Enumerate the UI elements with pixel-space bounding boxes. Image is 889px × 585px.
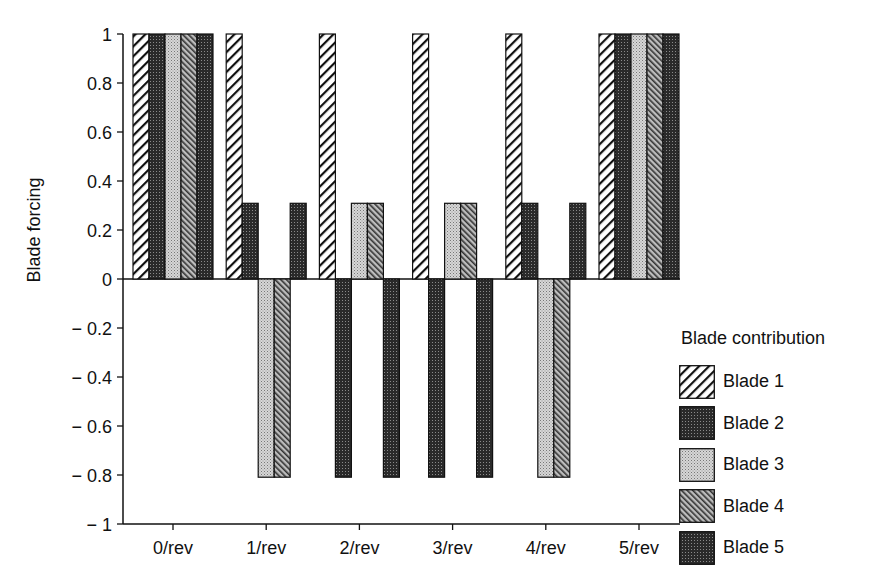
bar-group	[599, 34, 679, 279]
bar-group	[133, 34, 213, 279]
bar-group	[506, 34, 586, 477]
bar	[570, 203, 586, 279]
bars	[133, 34, 679, 477]
legend: Blade contribution Blade 1Blade 2Blade 3…	[679, 328, 825, 569]
bar	[197, 34, 213, 279]
bar	[226, 34, 242, 279]
bar	[477, 279, 493, 477]
bar	[647, 34, 663, 279]
legend-item: Blade 1	[679, 361, 825, 403]
bar	[335, 279, 351, 477]
bar	[506, 34, 522, 279]
bar	[461, 203, 477, 279]
y-tick-label: 0.6	[87, 123, 112, 143]
bar	[413, 34, 429, 279]
bar	[538, 279, 554, 477]
legend-label: Blade 2	[723, 413, 784, 434]
y-tick-label: − 0.2	[71, 319, 112, 339]
x-axis: 0/rev1/rev2/rev3/rev4/rev5/rev	[123, 279, 680, 558]
bar	[351, 203, 367, 279]
legend-label: Blade 5	[723, 537, 784, 558]
x-tick-label: 3/rev	[433, 538, 473, 558]
x-tick-label: 0/rev	[153, 538, 193, 558]
legend-label: Blade 3	[723, 454, 784, 475]
bar	[258, 279, 274, 477]
bar-group	[226, 34, 306, 477]
x-tick-label: 2/rev	[339, 538, 379, 558]
legend-title: Blade contribution	[681, 328, 825, 349]
legend-label: Blade 4	[723, 496, 784, 517]
bar	[522, 203, 538, 279]
bar-group	[413, 34, 493, 477]
bar	[367, 203, 383, 279]
legend-item: Blade 2	[679, 403, 825, 445]
legend-swatch-icon	[679, 406, 715, 440]
y-tick-label: 1	[102, 25, 112, 45]
y-tick-label: − 0.6	[71, 417, 112, 437]
bar	[290, 203, 306, 279]
legend-items: Blade 1Blade 2Blade 3Blade 4Blade 5	[679, 361, 825, 569]
y-tick-label: − 0.4	[71, 368, 112, 388]
bar	[599, 34, 615, 279]
bar	[319, 34, 335, 279]
bar	[165, 34, 181, 279]
legend-item: Blade 3	[679, 444, 825, 486]
bar	[615, 34, 631, 279]
bar	[445, 203, 461, 279]
y-tick-label: 0	[102, 270, 112, 290]
y-tick-label: 0.2	[87, 221, 112, 241]
bar	[149, 34, 165, 279]
bar	[429, 279, 445, 477]
y-tick-label: − 1	[86, 515, 112, 535]
x-tick-label: 1/rev	[246, 538, 286, 558]
bar	[133, 34, 149, 279]
y-axis: 10.80.60.40.20− 0.2− 0.4− 0.6− 0.8− 1	[71, 25, 123, 535]
bar	[631, 34, 647, 279]
y-axis-label: Blade forcing	[24, 177, 44, 282]
bar	[242, 203, 258, 279]
legend-swatch-icon	[679, 489, 715, 523]
legend-swatch-icon	[679, 365, 715, 399]
y-tick-label: 0.8	[87, 74, 112, 94]
legend-label: Blade 1	[723, 371, 784, 392]
x-tick-label: 4/rev	[526, 538, 566, 558]
legend-swatch-icon	[679, 531, 715, 565]
legend-item: Blade 5	[679, 527, 825, 569]
bar	[181, 34, 197, 279]
y-tick-label: − 0.8	[71, 466, 112, 486]
bar	[554, 279, 570, 477]
bar-group	[319, 34, 399, 477]
legend-item: Blade 4	[679, 486, 825, 528]
bar	[383, 279, 399, 477]
legend-swatch-icon	[679, 448, 715, 482]
bar	[663, 34, 679, 279]
y-tick-label: 0.4	[87, 172, 112, 192]
bar	[274, 279, 290, 477]
x-tick-label: 5/rev	[619, 538, 659, 558]
